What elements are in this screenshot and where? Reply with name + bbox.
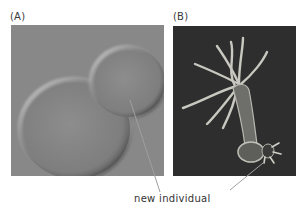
yeast-cells-illustration — [11, 25, 164, 176]
new-individual-label: new individual — [134, 193, 211, 204]
hydra-foot — [238, 142, 264, 162]
panel-b-label: (B) — [173, 11, 188, 22]
yeast-micrograph — [11, 25, 164, 176]
hydra-illustration — [173, 26, 296, 176]
hydra-micrograph — [173, 26, 296, 176]
bud-cell — [91, 47, 164, 117]
panel-a-label: (A) — [10, 11, 25, 22]
